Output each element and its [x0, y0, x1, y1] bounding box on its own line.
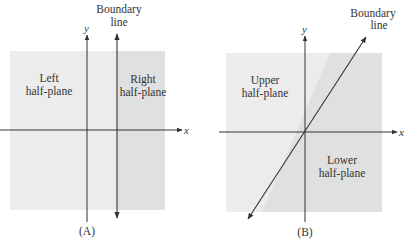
x-axis-label: x [398, 126, 404, 138]
right-region-label-line1: Right [130, 73, 156, 86]
lower-region-label-line2: half-plane [319, 167, 366, 180]
panel-b: x y Boundary line Upper half-plane Lower… [219, 7, 404, 239]
panel-a-caption: (A) [79, 225, 95, 238]
upper-region-label-line2: half-plane [242, 87, 289, 100]
y-axis-label: y [301, 23, 307, 35]
boundary-label-line2: line [110, 16, 127, 28]
upper-region-label-line1: Upper [251, 74, 280, 87]
half-plane-diagram: x y Boundary line Left half-plane Right … [0, 0, 406, 248]
x-axis-label: x [183, 124, 189, 136]
boundary-label-line2: line [370, 19, 387, 31]
panel-a: x y Boundary line Left half-plane Right … [0, 3, 189, 238]
left-region-label-line1: Left [39, 72, 59, 84]
panel-b-caption: (B) [297, 226, 313, 239]
boundary-label-line1: Boundary [96, 3, 142, 16]
left-region-label-line2: half-plane [26, 85, 73, 98]
y-axis-label: y [83, 22, 89, 34]
right-region-label-line2: half-plane [120, 86, 167, 99]
lower-region-label-line1: Lower [327, 154, 357, 166]
